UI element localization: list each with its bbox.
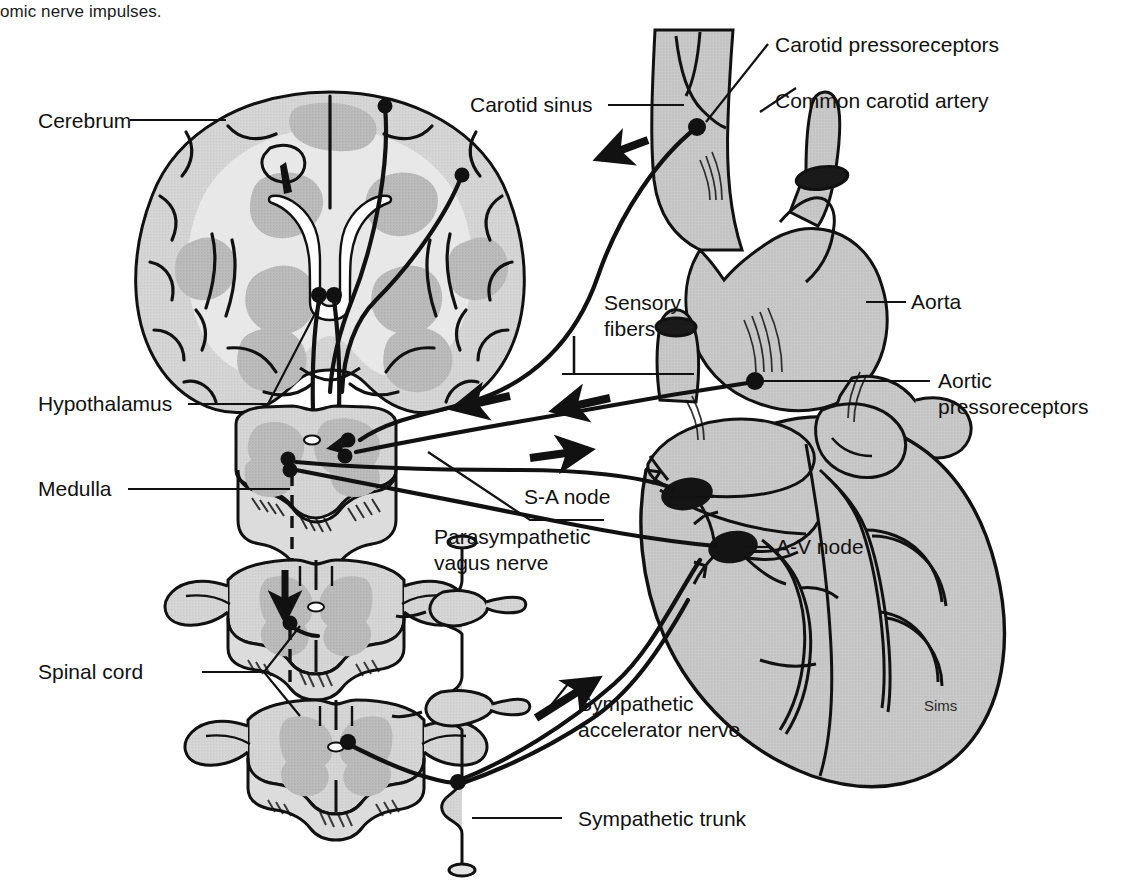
label-parasympathetic-line1: Parasympathetic [434, 524, 590, 549]
label-aorta: Aorta [911, 289, 961, 314]
label-sensory-fibers-line2: fibers [604, 316, 655, 341]
arrow-carotid-afferent [600, 140, 648, 158]
subclavian-lumen [795, 163, 850, 192]
label-parasympathetic-line2: vagus nerve [434, 550, 548, 575]
label-sensory-fibers-line1: Sensory [604, 290, 681, 315]
label-sympathetic-accelerator-line2: accelerator nerve [578, 717, 740, 742]
artist-signature: Sims [924, 697, 957, 714]
label-carotid-sinus: Carotid sinus [470, 92, 593, 117]
medulla-node-vasomotor [338, 449, 353, 464]
label-sa-node: S-A node [524, 484, 610, 509]
spinal-cord-segment-upper [165, 560, 467, 700]
label-common-carotid-artery: Common carotid artery [775, 88, 989, 113]
label-av-node: A-V node [776, 534, 864, 559]
cortical-node-superior [378, 99, 393, 114]
label-spinal-cord: Spinal cord [38, 659, 143, 684]
label-aortic-pressoreceptors-line1: Aortic [938, 368, 992, 393]
carotid-pressoreceptor-node [688, 118, 706, 136]
label-cerebrum: Cerebrum [38, 108, 131, 133]
label-sympathetic-trunk: Sympathetic trunk [578, 806, 746, 831]
figure-page: omic nerve impulses. [0, 0, 1133, 891]
label-carotid-pressoreceptors: Carotid pressoreceptors [775, 32, 999, 57]
label-sympathetic-accelerator-line1: Sympathetic [578, 691, 694, 716]
cerebrum-illustration [136, 92, 525, 413]
cortical-node-lateral [455, 168, 470, 183]
label-medulla: Medulla [38, 476, 112, 501]
vena-cava-lumen [656, 318, 696, 336]
anatomical-diagram [0, 0, 1133, 891]
label-aortic-pressoreceptors-line2: pressoreceptors [938, 394, 1089, 419]
arrow-vagus-efferent [530, 450, 588, 458]
label-hypothalamus: Hypothalamus [38, 391, 172, 416]
